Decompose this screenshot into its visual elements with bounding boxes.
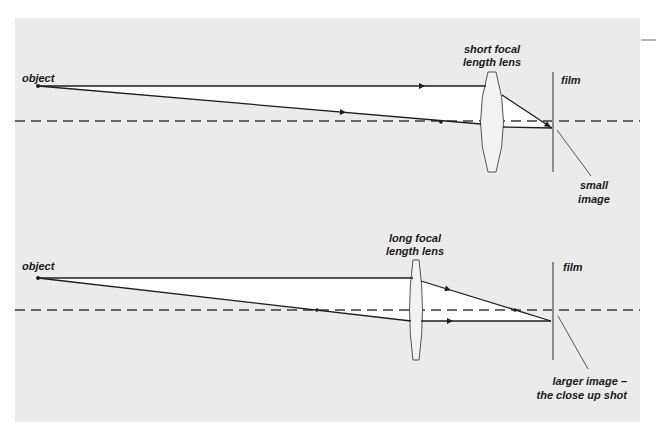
focal-point-back: [513, 308, 517, 312]
lens-label-line2: length lens: [386, 245, 444, 257]
lens-label-line1: long focal: [389, 232, 442, 244]
lens-label-line1: short focal: [464, 43, 521, 55]
lens-label-line2: length lens: [463, 56, 521, 68]
object-label: object: [22, 72, 56, 84]
film-label: film: [563, 261, 583, 273]
image-label-line2: the close up shot: [537, 389, 629, 401]
object-point: [36, 276, 40, 280]
lens-short: [481, 72, 504, 172]
image-label-line1: small: [580, 179, 609, 191]
image-label-line1: larger image –: [552, 375, 627, 387]
lens-diagram: object short focal length lens film smal…: [0, 0, 656, 434]
film-label: film: [561, 74, 581, 86]
panel-background: [15, 18, 640, 422]
object-label: object: [22, 260, 56, 272]
image-label-line2: image: [578, 193, 610, 205]
object-point: [36, 84, 40, 88]
lens-long: [410, 260, 423, 360]
focal-point-front: [315, 308, 319, 312]
focal-point: [439, 120, 443, 124]
